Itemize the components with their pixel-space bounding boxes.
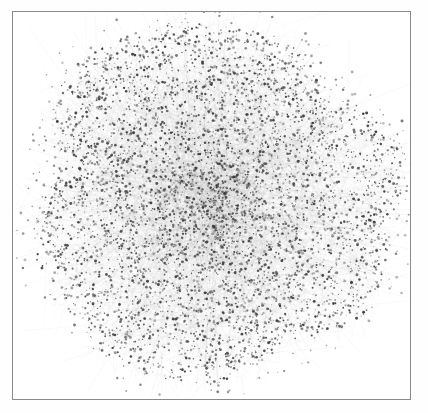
network-graph-canvas bbox=[0, 0, 428, 413]
network-graph-figure bbox=[0, 0, 428, 413]
